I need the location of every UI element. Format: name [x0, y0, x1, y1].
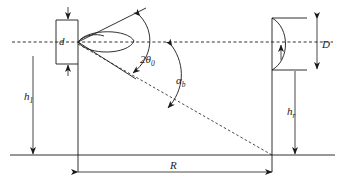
label-range: R	[169, 159, 177, 171]
antenna-geometry-diagram: d 2θ0 αb h1 D	[0, 0, 345, 193]
figure-canvas: d 2θ0 αb h1 D	[0, 0, 345, 193]
label-receive-height: hr	[287, 105, 296, 120]
label-reflector-diameter: D	[321, 38, 330, 50]
label-beamwidth: 2θ0	[140, 53, 155, 68]
beam-edge-upper	[78, 8, 146, 42]
label-feed-aperture: d	[59, 35, 65, 47]
label-beam-tilt: αb	[176, 74, 186, 89]
reflector-dish-curve	[272, 18, 286, 70]
label-transmit-height: h1	[24, 90, 33, 105]
